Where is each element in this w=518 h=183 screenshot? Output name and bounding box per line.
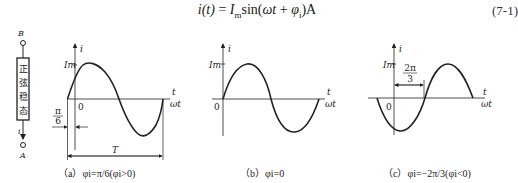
y-axis-label: i	[80, 44, 83, 54]
plot-a: i Im t ωt 0 π 6 T	[52, 44, 181, 160]
plot-b: i Im t ωt 0	[208, 44, 336, 136]
origin-label: 0	[386, 102, 392, 112]
plot-c: i Im t ωt 0 2π 3	[368, 44, 492, 135]
caption-a: （a）φi=π/6(φi>0)	[58, 165, 135, 180]
x-axis-label-t: t	[172, 87, 176, 97]
terminal-b-label: B	[17, 29, 24, 38]
amplitude-label: Im	[382, 60, 395, 70]
circuit-element: B 正 弦 稳 态 i A	[17, 29, 29, 160]
caption-b: （b）φi=0	[240, 165, 284, 180]
amplitude-label: Im	[63, 60, 76, 70]
y-axis-label: i	[228, 44, 231, 54]
terminal-a-label: A	[19, 151, 26, 160]
svg-text:稳: 稳	[19, 91, 28, 102]
y-axis-label: i	[399, 44, 402, 54]
svg-text:弦: 弦	[19, 77, 28, 88]
phase-den: 6	[55, 116, 61, 126]
sine-curve	[68, 63, 164, 136]
phase-num: π	[55, 106, 61, 116]
origin-label: 0	[78, 102, 84, 112]
x-axis-label-t: t	[483, 87, 487, 97]
phase-num: 2π	[404, 63, 416, 73]
terminal-b-node	[21, 41, 26, 46]
x-axis-label-wt: ωt	[325, 99, 336, 109]
current-label: i	[18, 127, 21, 136]
x-axis-label-wt: ωt	[481, 99, 492, 109]
x-axis-label-wt: ωt	[170, 99, 181, 109]
x-axis-label-t: t	[327, 87, 331, 97]
sine-curve	[223, 64, 319, 132]
svg-text:态: 态	[19, 105, 28, 116]
caption-c: （c）φi=−2π/3(φi<0)	[383, 165, 471, 180]
amplitude-label: Im	[208, 60, 221, 70]
sine-curve	[377, 64, 473, 131]
svg-text:正: 正	[19, 64, 28, 74]
origin-label: 0	[214, 102, 220, 112]
period-label: T	[112, 145, 119, 155]
phase-den: 3	[407, 74, 413, 84]
terminal-a-node	[21, 143, 26, 148]
